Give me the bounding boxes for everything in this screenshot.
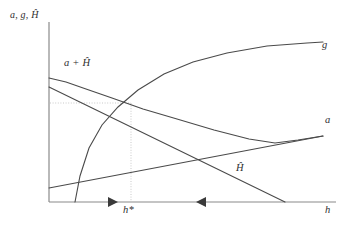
curve-label-a: a: [325, 115, 330, 126]
y-axis-label: a, g, Ĥ: [10, 10, 39, 20]
stability-arrow-left-icon: [196, 197, 206, 207]
equilibrium-label-h-star: h*: [123, 205, 134, 216]
curve-label-hhat: Ĥ: [236, 163, 244, 174]
curve-label-a-plus-hhat: a + Ĥ: [64, 58, 90, 69]
curve-g: [75, 42, 323, 202]
x-axis-label: h: [325, 205, 330, 216]
curve-label-g: g: [322, 40, 327, 51]
curve-a: [49, 136, 323, 188]
chart-svg: [0, 0, 348, 226]
stability-arrow-right-icon: [108, 197, 118, 207]
curve-a-plus-hhat: [49, 78, 323, 143]
guide-lines-group: [50, 103, 131, 201]
curve-hhat: [49, 87, 285, 202]
figure-canvas: a, g, Ĥ a + Ĥ g a Ĥ h* h: [0, 0, 348, 226]
axes-group: [49, 22, 336, 202]
